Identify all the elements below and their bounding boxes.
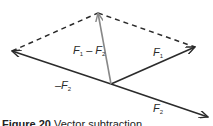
- dashed-side-right: [98, 13, 195, 47]
- figure-number: Figure 20: [2, 118, 51, 126]
- label-neg-f2: –F2: [54, 79, 72, 92]
- figure-caption: Figure 20 Vector subtraction: [2, 118, 142, 126]
- vector-diagram: F1 – F2 F1 –F2 F2: [0, 0, 213, 126]
- label-f2: F2: [153, 102, 164, 115]
- label-f1: F1: [153, 46, 164, 59]
- label-f1-minus-f2: F1 – F2: [73, 44, 106, 57]
- figure-title: Vector subtraction: [54, 118, 142, 126]
